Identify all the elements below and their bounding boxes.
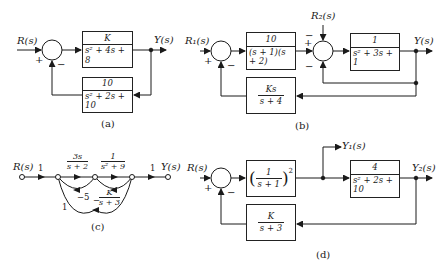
block-1: 10(s + 1)(s + 2) [246,32,296,70]
output1-label: Y₁(s) [342,141,366,151]
numerator: K [266,212,276,222]
output-label: Y(s) [414,36,434,46]
output2-label: Y₂(s) [412,163,436,173]
denominator: s + 2 [67,161,88,171]
output-label: Y(s) [154,35,174,45]
gain-loop2: K s + 3 [99,189,120,208]
minus-sign-bottom: − [305,62,313,72]
numerator: 1 [370,36,379,46]
gain-g2: 1 s² + 9 [101,153,125,172]
gain-g1: 3s s + 2 [67,153,88,172]
input-label: R(s) [17,36,37,46]
paren-open: ( [249,170,256,187]
caption: (b) [295,121,309,131]
block-2: 4s² + 2s + 10 [350,160,400,198]
paren-close: ) [282,170,289,187]
block-2: 1s² + 3s + 1 [350,33,400,71]
feedback-block: 10s² + 2s + 10 [82,77,133,113]
output-label: Y(s) [161,162,181,172]
plus-sign: + [35,55,43,65]
caption: (d) [316,250,330,260]
numerator: 3s [73,153,82,161]
sum-junction-a [42,40,62,60]
caption: (a) [101,119,115,129]
numerator: 4 [370,163,379,173]
numerator: K [107,189,113,197]
input2-label: R₂(s) [311,11,335,21]
block-1: ( 1s + 1 ) 2 [246,160,296,197]
minus-sign: − [57,60,65,70]
denominator: s² + 4s + 8 [83,44,132,65]
denominator: s + 3 [99,197,120,207]
input-label: R(s) [13,162,33,172]
numerator: 1 [264,168,273,178]
input-label: R(s) [187,163,207,173]
denominator: s² + 9 [101,161,125,171]
gain-out: 1 [150,164,155,173]
numerator: 1 [111,153,116,161]
numerator: 10 [100,79,115,89]
forward-block: Ks² + 4s + 8 [82,31,133,68]
gain-loop1: −5 [77,193,90,202]
plus-sign: + [204,56,212,66]
feedback-block: Kss + 4 [246,77,296,114]
denominator: s + 1 [256,178,282,189]
plus-sign: + [304,38,312,48]
minus-sign: − [227,61,235,71]
exponent: 2 [289,167,293,175]
denominator: s² + 2s + 10 [83,90,132,111]
plus-sign: + [204,183,212,193]
denominator: s² + 2s + 10 [351,174,399,195]
caption: (c) [91,222,104,232]
minus-sign: − [227,188,235,198]
denominator: s + 4 [258,95,284,106]
numerator: 10 [264,35,279,45]
numerator: Ks [264,85,279,95]
input1-label: R₁(s) [185,36,209,46]
feedback-block: Ks + 3 [246,204,296,241]
denominator: s² + 3s + 1 [351,47,399,68]
numerator: K [102,34,112,44]
gain-loop3: 1 [62,203,67,212]
gain-in: 1 [38,164,43,173]
denominator: s + 3 [258,222,284,233]
denominator: (s + 1)(s + 2) [247,46,295,67]
